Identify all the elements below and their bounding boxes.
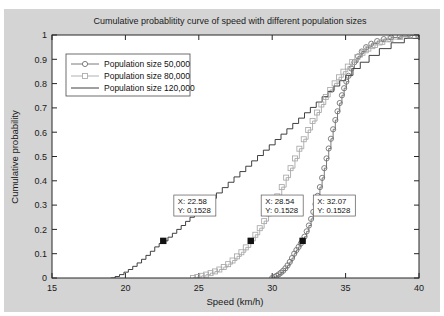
legend-entry-label: Population size 120,000 bbox=[104, 83, 195, 93]
x-tick-label: 30 bbox=[267, 283, 277, 293]
data-tip-x-value: X: 32.07 bbox=[317, 197, 346, 206]
data-tip-y-value: Y: 0.1528 bbox=[265, 206, 298, 215]
x-tick-label: 25 bbox=[194, 283, 204, 293]
data-tip-x-value: X: 22.58 bbox=[178, 197, 207, 206]
x-tick-label: 35 bbox=[341, 283, 351, 293]
data-tip-point-marker[interactable] bbox=[248, 238, 254, 244]
y-tick-label: 0 bbox=[42, 273, 47, 283]
data-tip-point-marker[interactable] bbox=[160, 238, 166, 244]
chart-legend: Population size 50,000Population size 80… bbox=[66, 54, 195, 96]
legend-circle-marker-icon bbox=[82, 61, 87, 66]
y-tick-label: 0.4 bbox=[34, 176, 47, 186]
data-tip-x-value: X: 28.54 bbox=[265, 197, 295, 206]
x-axis-label: Speed (km/h) bbox=[206, 296, 263, 307]
legend-entry-label: Population size 50,000 bbox=[104, 59, 190, 69]
legend-square-marker-icon bbox=[83, 74, 88, 79]
x-tick-label: 40 bbox=[414, 283, 424, 293]
cumulative-probability-chart: Cumulative probablitity curve of speed w… bbox=[4, 9, 440, 312]
y-tick-label: 1 bbox=[42, 30, 47, 40]
y-tick-label: 0.5 bbox=[34, 152, 47, 162]
y-tick-label: 0.2 bbox=[34, 225, 47, 235]
data-tip-point-marker[interactable] bbox=[299, 238, 305, 244]
y-tick-label: 0.9 bbox=[34, 55, 47, 65]
y-tick-label: 0.1 bbox=[34, 249, 47, 259]
x-tick-label: 20 bbox=[120, 283, 130, 293]
y-tick-label: 0.8 bbox=[34, 79, 47, 89]
data-tip-y-value: Y: 0.1528 bbox=[178, 206, 211, 215]
figure-panel: Cumulative probablitity curve of speed w… bbox=[4, 9, 440, 312]
y-tick-label: 0.3 bbox=[34, 200, 47, 210]
legend-entry-label: Population size 80,000 bbox=[104, 71, 190, 81]
y-axis-label: Cumulative probability bbox=[9, 110, 20, 204]
y-tick-label: 0.6 bbox=[34, 128, 47, 138]
y-tick-label: 0.7 bbox=[34, 103, 47, 113]
data-tip-y-value: Y: 0.1528 bbox=[317, 206, 350, 215]
chart-title: Cumulative probablitity curve of speed w… bbox=[94, 16, 367, 26]
x-tick-label: 15 bbox=[47, 283, 57, 293]
